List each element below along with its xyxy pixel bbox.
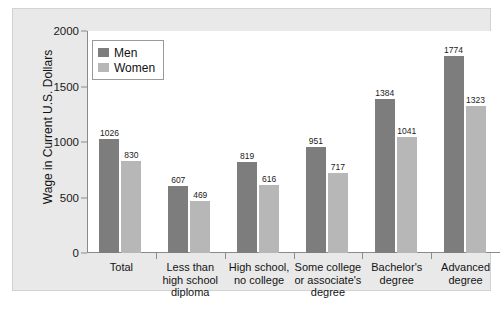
chart-legend: Men Women [92, 40, 164, 80]
legend-item-men: Men [98, 45, 155, 60]
x-axis-category-label: Some collegeor associate'sdegree [294, 261, 363, 299]
x-axis-label-line: Some college [294, 261, 363, 274]
y-axis-tick-label: 0 [13, 247, 79, 259]
bar-men [168, 186, 188, 253]
legend-swatch-women-icon [98, 63, 109, 72]
x-axis-separator-tick [294, 253, 295, 259]
bar-value-label: 607 [171, 175, 185, 185]
bar-value-label: 830 [124, 150, 138, 160]
chart-container: 05001000150020001026830Total607469Less t… [0, 0, 503, 311]
bar-women [121, 161, 141, 253]
figure-frame: 05001000150020001026830Total607469Less t… [12, 8, 491, 291]
x-axis-category-label: Advanceddegree [431, 261, 500, 286]
x-axis-separator-tick [431, 253, 432, 259]
x-axis-label-line: High school, [225, 261, 294, 274]
legend-label-men: Men [114, 46, 137, 60]
bar-value-label: 1026 [100, 128, 119, 138]
x-axis-category-label: Total [87, 261, 156, 274]
bar-men [444, 56, 464, 253]
x-axis-category-label: High school,no college [225, 261, 294, 286]
legend-swatch-men-icon [98, 48, 109, 57]
x-axis-separator-tick [225, 253, 226, 259]
x-axis-label-line: or associate's [294, 274, 363, 287]
y-axis-tick-mark [81, 142, 87, 143]
bar-value-label: 1774 [444, 45, 463, 55]
y-axis-title: Wage in Current U.S. Dollars [41, 12, 55, 242]
y-axis-tick-mark [81, 253, 87, 254]
x-axis-category-label: Bachelor'sdegree [362, 261, 431, 286]
bar-value-label: 616 [262, 174, 276, 184]
bar-value-label: 1384 [375, 88, 394, 98]
bar-value-label: 1041 [397, 126, 416, 136]
x-axis-label-line: Bachelor's [362, 261, 431, 274]
bar-men [99, 139, 119, 253]
x-axis-separator-tick [156, 253, 157, 259]
bar-value-label: 469 [193, 190, 207, 200]
bar-women [466, 106, 486, 253]
x-axis-label-line: no college [225, 274, 294, 287]
x-axis-label-line: Total [87, 261, 156, 274]
x-axis-category-label: Less thanhigh schooldiploma [156, 261, 225, 299]
bar-women [328, 173, 348, 253]
x-axis-separator-tick [362, 253, 363, 259]
x-axis-label-line: diploma [156, 286, 225, 299]
x-axis-label-line: high school [156, 274, 225, 287]
bar-men [237, 162, 257, 253]
x-axis-label-line: degree [362, 274, 431, 287]
y-axis-tick-mark [81, 31, 87, 32]
bar-women [190, 201, 210, 253]
bar-value-label: 1323 [466, 95, 485, 105]
bar-men [306, 147, 326, 253]
y-axis-tick-mark [81, 86, 87, 87]
bar-men [375, 99, 395, 253]
legend-item-women: Women [98, 60, 155, 75]
bar-value-label: 819 [240, 151, 254, 161]
y-axis-tick-mark [81, 197, 87, 198]
legend-label-women: Women [114, 61, 155, 75]
x-axis-label-line: Less than [156, 261, 225, 274]
bar-women [259, 185, 279, 253]
bar-women [397, 137, 417, 253]
bar-value-label: 951 [309, 136, 323, 146]
bar-value-label: 717 [331, 162, 345, 172]
x-axis-label-line: Advanced [431, 261, 500, 274]
x-axis-label-line: degree [431, 274, 500, 287]
x-axis-label-line: degree [294, 286, 363, 299]
